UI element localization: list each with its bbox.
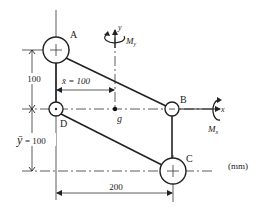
- horizontal-dimension: 200: [57, 182, 172, 193]
- node-A-label: A: [70, 29, 78, 40]
- ybar-label: = 100: [25, 136, 46, 146]
- units-label: (mm): [228, 161, 248, 171]
- node-C-label: C: [186, 153, 193, 164]
- moment-x-curl-icon: [213, 100, 220, 120]
- linkage-diagram: g A B C D 100 ȳ = 100 x̄ = 100 200 y My …: [0, 0, 260, 214]
- node-B-label: B: [180, 94, 187, 105]
- centroid-label: g: [117, 113, 122, 124]
- member-DC: [61, 114, 162, 165]
- y-axis-label: y: [117, 23, 122, 32]
- xbar-dimension: x̄ = 100: [57, 76, 114, 90]
- y-axis-moment: y My: [104, 23, 137, 48]
- moment-y-label: My: [125, 36, 137, 47]
- moment-x-label: Mx: [207, 124, 219, 135]
- xbar-label: x̄ = 100: [61, 76, 91, 86]
- dimension-AD-label: 100: [27, 74, 41, 84]
- centroid-point: [113, 107, 117, 111]
- node-D-label: D: [60, 118, 67, 129]
- x-axis-moment: x Mx: [180, 97, 225, 135]
- ybar-symbol: ȳ: [16, 133, 23, 147]
- dimension-200-label: 200: [109, 182, 123, 192]
- x-axis-label: x: [220, 105, 225, 114]
- members: [56, 58, 172, 165]
